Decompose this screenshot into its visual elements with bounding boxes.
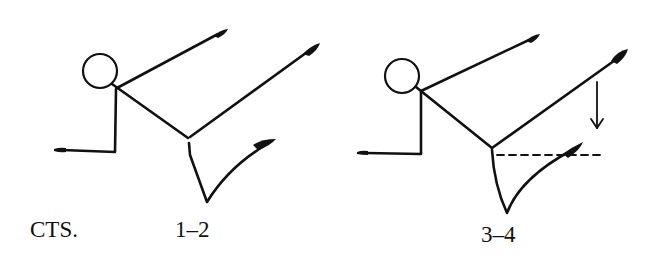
kick-sequence-diagram bbox=[0, 0, 656, 260]
down-arrow-icon bbox=[591, 82, 603, 128]
stick-figure-2 bbox=[366, 39, 618, 213]
hand-tip-icon bbox=[54, 148, 66, 153]
hand-tip-icon bbox=[526, 34, 540, 43]
foot-tip-icon bbox=[253, 139, 276, 150]
figure-1-counts: 1–2 bbox=[175, 218, 210, 241]
standing-leg bbox=[492, 150, 572, 213]
torso bbox=[112, 84, 188, 138]
raised-arm bbox=[421, 39, 531, 91]
torso bbox=[416, 87, 492, 148]
lower-arm bbox=[366, 92, 421, 154]
standing-leg bbox=[189, 143, 264, 202]
foot-tip-icon bbox=[303, 43, 320, 56]
lower-arm bbox=[62, 89, 116, 152]
hand-tip-icon bbox=[357, 151, 368, 155]
hand-tip-icon bbox=[214, 29, 228, 38]
foot-tip-icon bbox=[611, 49, 628, 64]
figure-2-counts: 3–4 bbox=[481, 223, 516, 246]
counts-label: CTS. bbox=[30, 218, 78, 241]
raised-arm bbox=[117, 34, 218, 88]
head-icon bbox=[385, 59, 419, 93]
stick-figure-1 bbox=[62, 34, 310, 202]
kicking-leg bbox=[190, 50, 310, 137]
kicking-leg bbox=[492, 58, 618, 148]
